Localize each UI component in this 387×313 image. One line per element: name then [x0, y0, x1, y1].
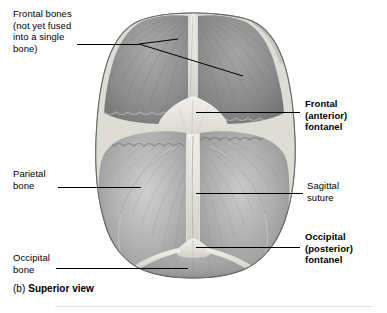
label-frontal-bones: Frontal bones (not yet fused into a sing… [13, 8, 109, 54]
label-occipital-posterior-fontanel: Occipital (posterior) fontanel [305, 231, 387, 266]
figure-caption: (b)Superior view [13, 282, 94, 295]
fetal-skull-superior-view-figure: Frontal bones (not yet fused into a sing… [0, 0, 387, 313]
label-occipital-bone: Occipital bone [13, 252, 83, 275]
label-frontal-anterior-fontanel: Frontal (anterior) fontanel [305, 98, 385, 133]
bottom-divider [55, 306, 373, 307]
label-sagittal-suture: Sagittal suture [307, 180, 377, 203]
caption-letter: (b) [13, 283, 25, 294]
caption-text: Superior view [25, 283, 94, 294]
label-parietal-bone: Parietal bone [13, 168, 83, 191]
leader-frontal-bones-branch-right [139, 44, 243, 76]
leader-frontal-bones-branch-left [139, 39, 178, 44]
